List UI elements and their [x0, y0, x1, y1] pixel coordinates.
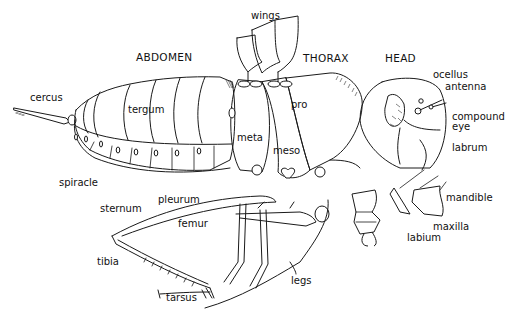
metathorax-shape — [229, 80, 270, 175]
label-pro: pro — [291, 100, 307, 110]
label-compound-eye-line2: eye — [452, 122, 470, 132]
label-tergum: tergum — [128, 105, 164, 115]
label-head: HEAD — [385, 53, 416, 64]
label-labrum: labrum — [452, 143, 487, 153]
label-maxilla: maxilla — [433, 222, 469, 232]
head-shape — [360, 78, 446, 170]
label-legs: legs — [291, 276, 312, 286]
label-pleurum: pleurum — [158, 195, 200, 205]
insect-drawing — [0, 0, 505, 328]
legs-shape — [112, 196, 329, 308]
abdomen-shape — [74, 77, 234, 172]
label-abdomen: ABDOMEN — [136, 52, 192, 63]
label-labium: labium — [407, 233, 441, 243]
label-sternum: sternum — [100, 204, 142, 214]
label-wings: wings — [251, 11, 280, 21]
label-mandible: mandible — [446, 193, 493, 203]
prothorax-shape — [286, 73, 362, 177]
wings-shape — [237, 16, 298, 87]
label-tarsus: tarsus — [166, 293, 197, 303]
label-meso: meso — [273, 146, 300, 156]
cercus-shape — [14, 108, 76, 125]
label-thorax: THORAX — [303, 53, 349, 64]
label-femur: femur — [178, 219, 208, 229]
label-antenna: antenna — [445, 82, 486, 92]
label-spiracle: spiracle — [59, 178, 98, 188]
label-cercus: cercus — [30, 93, 63, 103]
label-ocellus: ocellus — [433, 70, 468, 80]
label-tibia: tibia — [97, 257, 119, 267]
insect-anatomy-diagram: ABDOMEN THORAX HEAD wings cercus tergum … — [0, 0, 505, 328]
label-meta: meta — [237, 133, 263, 143]
